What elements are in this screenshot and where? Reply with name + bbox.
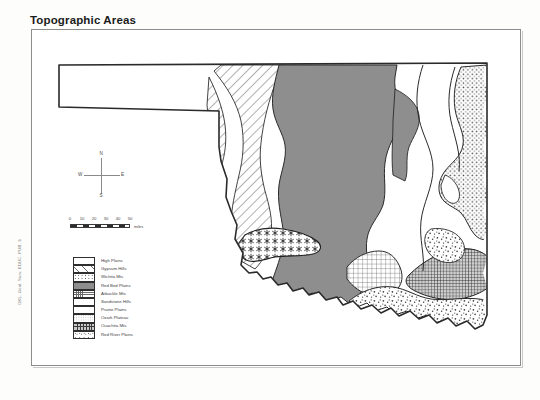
- map-legend: High PlainsGypsum HillsWichita MtsRed Be…: [73, 257, 133, 339]
- legend-label: Ouachita Mts: [101, 324, 126, 328]
- legend-item-red-river-plains[interactable]: Red River Plains: [73, 331, 133, 339]
- scale-tick-10: 10: [80, 217, 85, 221]
- scale-tick-40: 40: [116, 217, 121, 221]
- scale-tick-50: 50: [128, 217, 133, 221]
- legend-item-prairie-plains[interactable]: Prairie Plains: [73, 306, 133, 314]
- compass-rose: N S E W: [78, 152, 126, 200]
- legend-item-wichita-mts[interactable]: Wichita Mts: [73, 273, 133, 281]
- scale-tick-0: 0: [69, 217, 71, 221]
- legend-swatch-stipple: [73, 331, 95, 339]
- legend-item-ouachita-mts[interactable]: Ouachita Mts: [73, 323, 133, 331]
- legend-swatch-sandstone: [73, 298, 95, 306]
- figure-page: Topographic Areas OKL. Geol. Surv. EDUC.…: [0, 0, 540, 400]
- page-title: Topographic Areas: [30, 14, 136, 26]
- legend-label: Wichita Mts: [101, 275, 123, 279]
- legend-item-sandstone-hills[interactable]: Sandstone Hills: [73, 298, 133, 306]
- scale-tick-30: 30: [104, 217, 109, 221]
- publication-code: OKL. Geol. Surv. EDUC. PUB. 3: [17, 239, 22, 305]
- legend-label: Ozark Plateau: [101, 316, 128, 320]
- legend-label: Red Bed Plains: [101, 284, 131, 288]
- legend-item-arbuckle-mts[interactable]: Arbuckle Mts: [73, 290, 133, 298]
- legend-swatch-plain: [73, 257, 95, 265]
- scale-unit-label: miles: [134, 225, 143, 229]
- legend-swatch-dot: [73, 314, 95, 322]
- legend-swatch-dense: [73, 323, 95, 331]
- legend-item-gypsum-hills[interactable]: Gypsum Hills: [73, 265, 133, 273]
- compass-north-label: N: [100, 152, 103, 157]
- scale-tick-labels: 01020304050: [70, 217, 150, 223]
- legend-item-high-plains[interactable]: High Plains: [73, 257, 133, 265]
- compass-axis-horizontal: [84, 175, 120, 176]
- legend-swatch-solid: [73, 282, 95, 290]
- legend-label: Gypsum Hills: [101, 267, 126, 271]
- legend-item-red-bed-plains[interactable]: Red Bed Plains: [73, 282, 133, 290]
- compass-east-label: E: [121, 173, 124, 178]
- legend-label: Prairie Plains: [101, 308, 126, 312]
- legend-label: Sandstone Hills: [101, 300, 131, 304]
- legend-swatch-prairie: [73, 306, 95, 314]
- legend-item-ozark-plateau[interactable]: Ozark Plateau: [73, 314, 133, 322]
- compass-south-label: S: [100, 194, 103, 199]
- scale-tick-20: 20: [92, 217, 97, 221]
- scale-bar-graphic: [70, 224, 130, 228]
- legend-swatch-star: [73, 273, 95, 281]
- legend-swatch-hatch: [73, 265, 95, 273]
- compass-axis-vertical: [101, 158, 102, 194]
- scale-bar: 01020304050 miles: [70, 217, 150, 235]
- legend-swatch-grid: [73, 290, 95, 298]
- legend-label: High Plains: [101, 259, 123, 263]
- legend-label: Arbuckle Mts: [101, 292, 126, 296]
- legend-label: Red River Plains: [101, 333, 133, 337]
- compass-west-label: W: [78, 173, 82, 178]
